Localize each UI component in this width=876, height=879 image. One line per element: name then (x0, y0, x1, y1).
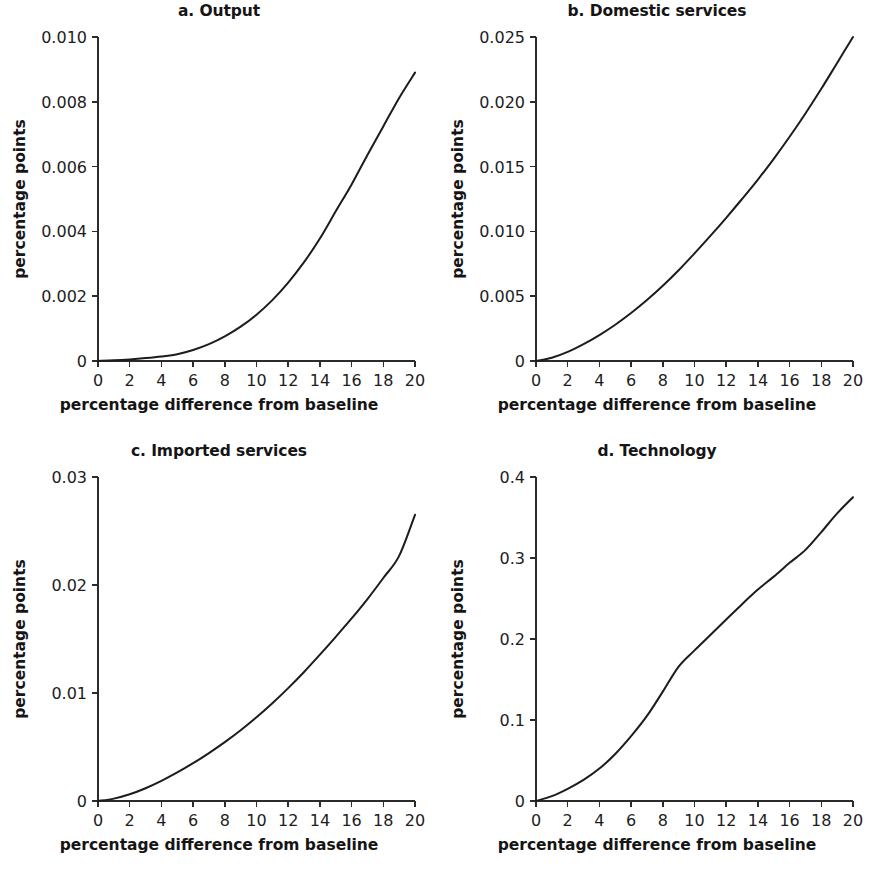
x-tick-label: 16 (779, 811, 799, 830)
data-series-line (536, 497, 853, 801)
x-tick-label: 6 (626, 811, 636, 830)
x-tick-label: 12 (278, 371, 298, 390)
y-tick-label: 0.4 (438, 468, 525, 487)
y-tick-label: 0 (438, 352, 525, 371)
x-tick-label: 0 (531, 371, 541, 390)
x-tick-label: 12 (716, 371, 736, 390)
chart-panel-a: a. Output00.0020.0040.0060.0080.01002468… (0, 0, 438, 440)
x-tick-label: 12 (716, 811, 736, 830)
x-tick-label: 2 (563, 371, 573, 390)
x-axis-label: percentage difference from baseline (438, 396, 876, 414)
x-tick-label: 4 (594, 811, 604, 830)
data-series-line (98, 515, 415, 801)
y-tick-label: 0.03 (0, 468, 87, 487)
x-tick-label: 10 (684, 371, 704, 390)
x-tick-label: 16 (779, 371, 799, 390)
x-tick-label: 18 (811, 811, 831, 830)
y-tick-label: 0.010 (0, 28, 87, 47)
y-tick-label: 0 (0, 792, 87, 811)
x-tick-label: 4 (594, 371, 604, 390)
x-tick-label: 6 (626, 371, 636, 390)
x-axis-label: percentage difference from baseline (438, 836, 876, 854)
x-tick-label: 2 (125, 371, 135, 390)
data-series-line (536, 37, 853, 361)
x-tick-label: 8 (220, 811, 230, 830)
multi-panel-figure: a. Output00.0020.0040.0060.0080.01002468… (0, 0, 876, 879)
x-tick-label: 18 (811, 371, 831, 390)
x-tick-label: 10 (246, 371, 266, 390)
x-tick-label: 12 (278, 811, 298, 830)
y-axis-label: percentage points (11, 559, 29, 719)
x-tick-label: 14 (310, 371, 330, 390)
x-tick-label: 8 (658, 811, 668, 830)
y-tick-label: 0.005 (438, 287, 525, 306)
y-tick-label: 0 (438, 792, 525, 811)
y-tick-label: 0 (0, 352, 87, 371)
y-axis-label: percentage points (449, 559, 467, 719)
y-tick-label: 0.008 (0, 92, 87, 111)
x-tick-label: 8 (220, 371, 230, 390)
x-tick-label: 18 (373, 371, 393, 390)
x-tick-label: 2 (125, 811, 135, 830)
x-tick-label: 14 (748, 371, 768, 390)
y-tick-label: 0.025 (438, 28, 525, 47)
x-tick-label: 20 (843, 811, 863, 830)
data-series-line (98, 73, 415, 361)
x-tick-label: 16 (341, 371, 361, 390)
y-axis-label: percentage points (11, 119, 29, 279)
chart-panel-d: d. Technology00.10.20.30.402468101214161… (438, 440, 876, 879)
x-tick-label: 20 (843, 371, 863, 390)
x-tick-label: 16 (341, 811, 361, 830)
chart-panel-c: c. Imported services00.010.020.030246810… (0, 440, 438, 879)
x-tick-label: 18 (373, 811, 393, 830)
x-tick-label: 20 (405, 371, 425, 390)
x-tick-label: 14 (748, 811, 768, 830)
x-tick-label: 20 (405, 811, 425, 830)
x-axis-label: percentage difference from baseline (0, 836, 438, 854)
x-tick-label: 0 (531, 811, 541, 830)
x-tick-label: 8 (658, 371, 668, 390)
x-tick-label: 6 (188, 811, 198, 830)
x-tick-label: 2 (563, 811, 573, 830)
y-tick-label: 0.002 (0, 287, 87, 306)
x-tick-label: 6 (188, 371, 198, 390)
x-tick-label: 10 (246, 811, 266, 830)
x-tick-label: 0 (93, 811, 103, 830)
x-tick-label: 4 (156, 811, 166, 830)
x-axis-label: percentage difference from baseline (0, 396, 438, 414)
chart-panel-b: b. Domestic services00.0050.0100.0150.02… (438, 0, 876, 440)
x-tick-label: 4 (156, 371, 166, 390)
y-tick-label: 0.020 (438, 92, 525, 111)
x-tick-label: 0 (93, 371, 103, 390)
x-tick-label: 14 (310, 811, 330, 830)
x-tick-label: 10 (684, 811, 704, 830)
y-axis-label: percentage points (449, 119, 467, 279)
